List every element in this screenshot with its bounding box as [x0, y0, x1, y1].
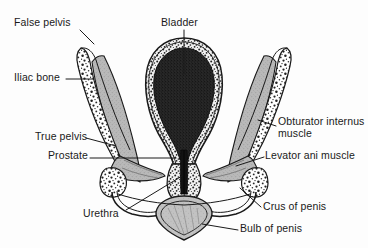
label-iliac-bone: Iliac bone [14, 72, 60, 84]
label-bulb-of-penis: Bulb of penis [240, 223, 302, 235]
anatomy-figure: False pelvis Bladder Iliac bone Obturato… [0, 0, 368, 248]
label-prostate: Prostate [48, 150, 88, 162]
label-bladder: Bladder [161, 17, 198, 29]
label-levator-ani-muscle: Levator ani muscle [265, 150, 355, 162]
label-false-pelvis: False pelvis [14, 17, 71, 29]
label-crus-of-penis: Crus of penis [263, 201, 326, 213]
label-urethra: Urethra [83, 208, 119, 220]
label-true-pelvis: True pelvis [35, 131, 87, 143]
label-obturator-internus-muscle: Obturator internus muscle [278, 116, 364, 139]
crus-of-penis-left [100, 168, 126, 198]
